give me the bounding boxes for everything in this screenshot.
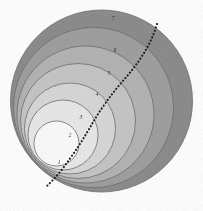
- circle-label-1: 1: [58, 159, 61, 165]
- circle-label-2: 2: [69, 132, 72, 138]
- circle-label-7: 7: [112, 15, 115, 21]
- circle-label-4: 4: [96, 91, 99, 97]
- circle-label-3: 3: [80, 114, 83, 120]
- figure-container: 7 6 5 4 3 2 1: [0, 0, 203, 211]
- circle-stack: [11, 10, 193, 192]
- circle-1: [34, 121, 79, 166]
- nested-circles-figure: 7 6 5 4 3 2 1: [0, 0, 203, 211]
- circle-label-5: 5: [108, 70, 111, 76]
- circle-label-6: 6: [114, 47, 117, 53]
